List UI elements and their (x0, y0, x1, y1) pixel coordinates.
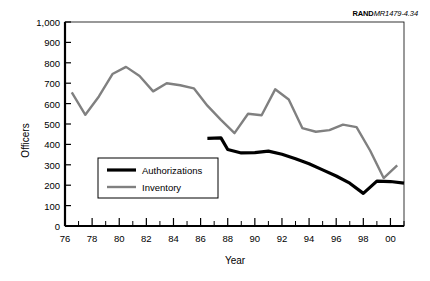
plot-area: AuthorizationsInventory (0, 0, 430, 281)
chart-figure: RANDMR1479-4.34 Officers Year 0100200300… (0, 0, 430, 281)
legend-label-inventory: Inventory (142, 182, 181, 193)
series-line-authorizations (207, 138, 404, 193)
legend-label-authorizations: Authorizations (142, 165, 202, 176)
chart-legend: AuthorizationsInventory (98, 158, 218, 198)
